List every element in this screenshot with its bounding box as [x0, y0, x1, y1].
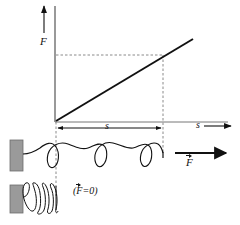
figure-canvas — [0, 0, 240, 225]
force-extension-line — [56, 39, 193, 121]
stretched-spring — [23, 143, 163, 168]
relaxed-spring — [23, 183, 58, 214]
x-axis — [55, 122, 231, 126]
extension-dimension-label: s — [105, 121, 109, 131]
x-axis-label: s — [196, 120, 200, 130]
hookes-law-figure: F s s F ( F =0) — [0, 0, 240, 225]
close-paren: ) — [94, 185, 97, 196]
wall-anchor-bottom — [10, 185, 23, 213]
force-vector-label: F — [186, 157, 193, 168]
wall-anchor-top — [10, 140, 23, 171]
relaxed-force-symbol: F — [76, 185, 82, 196]
force-vector-symbol: F — [186, 156, 193, 168]
relaxed-state-label: ( F =0) — [73, 186, 98, 196]
y-axis-label: F — [40, 36, 47, 47]
